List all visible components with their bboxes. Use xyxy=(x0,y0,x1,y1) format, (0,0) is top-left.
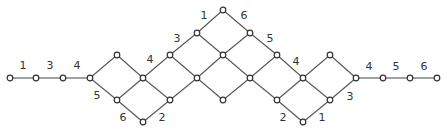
node xyxy=(327,97,333,103)
edge xyxy=(143,100,170,122)
node xyxy=(274,97,280,103)
edge-label: 6 xyxy=(120,111,127,124)
edge-label: 1 xyxy=(319,111,326,124)
edge xyxy=(223,78,250,100)
edge-label: 4 xyxy=(293,55,300,68)
edge-label: 6 xyxy=(421,60,428,73)
edge xyxy=(197,33,223,55)
edge-label: 3 xyxy=(47,59,54,72)
edge xyxy=(223,33,250,55)
edge-label: 3 xyxy=(174,32,181,45)
node xyxy=(167,52,173,58)
edge-label: 3 xyxy=(347,90,354,103)
node xyxy=(247,75,253,81)
edge-label: 2 xyxy=(159,111,166,124)
edge xyxy=(303,78,330,100)
edge xyxy=(303,55,330,78)
nodes xyxy=(7,7,440,125)
node xyxy=(247,30,253,36)
node xyxy=(60,75,66,81)
edge xyxy=(250,78,277,100)
node xyxy=(87,75,93,81)
lattice-diagram: 134562431654213456 xyxy=(0,0,447,132)
node xyxy=(140,75,146,81)
edge xyxy=(223,55,250,78)
node xyxy=(33,75,39,81)
edge xyxy=(170,78,197,100)
edge xyxy=(277,78,303,100)
node xyxy=(220,52,226,58)
edge-label: 5 xyxy=(94,89,101,102)
node xyxy=(167,97,173,103)
edge xyxy=(117,55,143,78)
node xyxy=(220,7,226,13)
edge xyxy=(197,78,223,100)
node xyxy=(140,119,146,125)
edge-label: 4 xyxy=(74,59,81,72)
edge xyxy=(90,55,117,78)
edge-labels: 134562431654213456 xyxy=(20,9,428,124)
edge xyxy=(143,78,170,100)
edge-label: 2 xyxy=(280,111,287,124)
node xyxy=(7,75,13,81)
node xyxy=(114,52,120,58)
node xyxy=(380,75,386,81)
edge-label: 5 xyxy=(267,32,274,45)
edge xyxy=(330,55,356,78)
node xyxy=(434,75,440,81)
edge-label: 6 xyxy=(241,9,248,22)
edge-label: 4 xyxy=(147,53,154,66)
node xyxy=(194,30,200,36)
node xyxy=(114,97,120,103)
node xyxy=(220,97,226,103)
node xyxy=(300,119,306,125)
edge-label: 4 xyxy=(366,60,373,73)
edge-label: 1 xyxy=(20,59,27,72)
edge-label: 5 xyxy=(393,60,400,73)
node xyxy=(353,75,359,81)
edge xyxy=(303,100,330,122)
node xyxy=(327,52,333,58)
node xyxy=(407,75,413,81)
edge xyxy=(117,78,143,100)
edge xyxy=(250,55,277,78)
node xyxy=(300,75,306,81)
edge xyxy=(197,55,223,78)
node xyxy=(274,52,280,58)
edge xyxy=(170,55,197,78)
edge-label: 1 xyxy=(201,9,208,22)
node xyxy=(194,75,200,81)
